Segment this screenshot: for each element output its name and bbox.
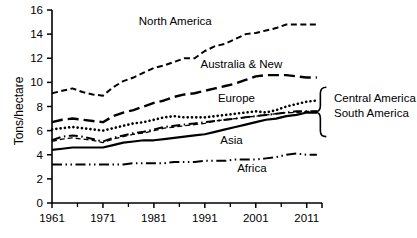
y-tick-label: 0	[37, 197, 43, 209]
axes-group	[52, 10, 322, 203]
annotation-europe: Europe	[217, 92, 256, 104]
y-tick-label: 4	[37, 149, 44, 161]
y-tick-label: 6	[37, 125, 43, 137]
y-tick-label: 2	[37, 173, 43, 185]
y-tick-label: 8	[37, 101, 43, 113]
y-tick-label: 16	[30, 4, 43, 16]
x-tick-label: 1961	[39, 212, 65, 224]
x-tick-label: 1981	[141, 212, 167, 224]
x-tick-label: 1991	[192, 212, 218, 224]
x-tick-label: 2001	[243, 212, 269, 224]
annotation-australia-new: Australia & New	[199, 58, 283, 70]
data-series-group	[52, 24, 317, 164]
annotation-asia: Asia	[219, 134, 243, 146]
series-line-europe	[52, 100, 317, 130]
annotation-south-america: South America	[334, 107, 409, 119]
annotation-north-america: North America	[138, 15, 213, 27]
y-tick-label: 12	[30, 52, 43, 64]
series-line-africa	[52, 154, 317, 165]
annotation-central-america: Central America	[334, 92, 416, 104]
grouping-brace	[314, 87, 326, 136]
y-tick-label: 10	[30, 76, 43, 88]
x-axis-ticks: 196119711981199120012011	[39, 203, 322, 224]
x-tick-label: 2011	[294, 212, 319, 224]
y-axis-ticks: 0246810121416	[30, 4, 52, 209]
line-chart-plot: 0246810121416 196119711981199120012011	[0, 0, 417, 238]
x-tick-label: 1971	[90, 212, 116, 224]
chart-figure: Tons/hectare 0246810121416 1961197119811…	[0, 0, 417, 238]
annotation-africa: Africa	[236, 162, 267, 174]
y-tick-label: 14	[30, 28, 43, 40]
series-line-australia-new	[52, 75, 317, 122]
series-line-asia	[52, 113, 317, 150]
